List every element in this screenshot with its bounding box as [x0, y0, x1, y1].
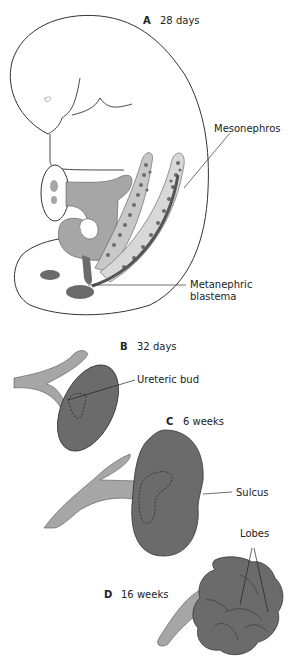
- panel-d-16-weeks: D 16 weeks Lobes: [104, 528, 283, 655]
- label-lobes: Lobes: [240, 528, 269, 539]
- kidney-development-diagram: A 28 days: [0, 0, 294, 667]
- label-blastema: blastema: [190, 291, 236, 302]
- panel-d-letter: D: [104, 589, 112, 600]
- metanephric-blastema: [66, 285, 94, 299]
- panel-a-age: 28 days: [160, 15, 200, 26]
- panel-a-letter: A: [143, 15, 151, 26]
- panel-b-age: 32 days: [137, 341, 177, 352]
- blastema-blob-1: [40, 270, 60, 280]
- label-ureteric-bud: Ureteric bud: [137, 374, 199, 385]
- cut-tube: [41, 165, 69, 221]
- label-mesonephros: Mesonephros: [214, 123, 281, 134]
- panel-c-letter: C: [166, 416, 173, 427]
- label-sulcus: Sulcus: [236, 487, 269, 498]
- eye-icon: [44, 97, 51, 102]
- panel-c-age: 6 weeks: [183, 416, 224, 427]
- panel-d-age: 16 weeks: [121, 589, 168, 600]
- label-metanephric: Metanephric: [190, 279, 252, 290]
- panel-a-embryo: A 28 days: [10, 15, 280, 315]
- panel-b-letter: B: [120, 341, 128, 352]
- ureter-c: [44, 454, 140, 528]
- kidney-c: [132, 430, 203, 556]
